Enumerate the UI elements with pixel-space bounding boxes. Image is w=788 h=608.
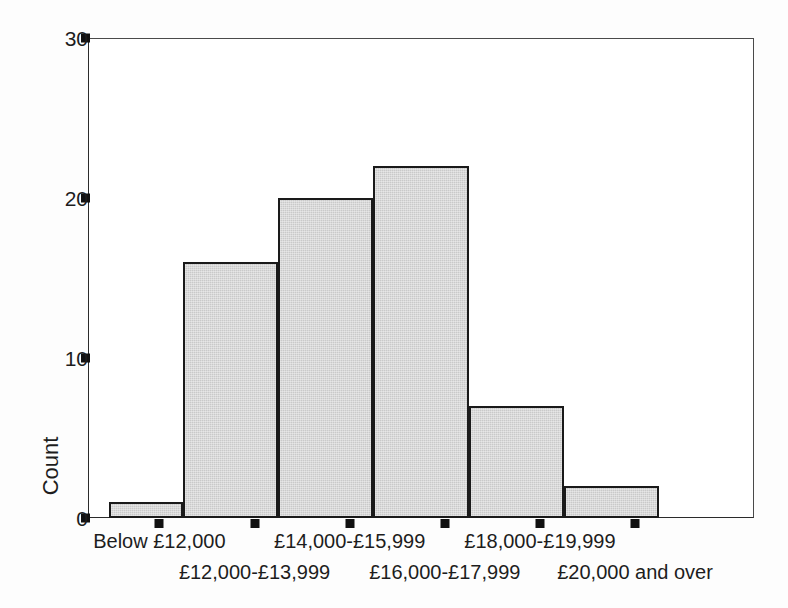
x-tick-mark xyxy=(155,519,164,528)
x-tick-mark xyxy=(631,519,640,528)
x-tick-mark xyxy=(345,519,354,528)
x-tick-label: Below £12,000 xyxy=(93,531,225,551)
x-tick-label: £20,000 and over xyxy=(557,562,713,582)
x-tick-label: £18,000-£19,999 xyxy=(464,531,615,551)
x-tick-label: £12,000-£13,999 xyxy=(179,562,330,582)
x-tick-label: £14,000-£15,999 xyxy=(274,531,425,551)
x-tick-mark xyxy=(535,519,544,528)
x-tick-label: £16,000-£17,999 xyxy=(369,562,520,582)
x-tick-mark xyxy=(250,519,259,528)
x-tick-mark xyxy=(440,519,449,528)
histogram-chart: 3020100 Count Below £12,000£12,000-£13,9… xyxy=(0,0,788,608)
x-axis: Below £12,000£12,000-£13,999£14,000-£15,… xyxy=(0,0,788,608)
